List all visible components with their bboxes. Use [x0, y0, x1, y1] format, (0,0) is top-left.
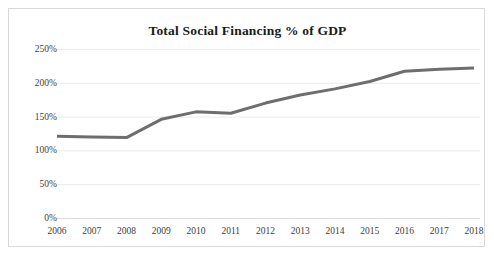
x-axis-tick-label: 2018: [465, 226, 484, 236]
x-axis-tick-label: 2009: [152, 226, 171, 236]
x-axis-tick-label: 2006: [48, 226, 67, 236]
x-axis-tick-label: 2013: [291, 226, 310, 236]
x-axis-ticks: 2006200720082009201020112012201320142015…: [9, 9, 486, 248]
corner-mark: •: [479, 240, 481, 245]
chart-container: Total Social Financing % of GDP 0%50%100…: [8, 8, 485, 247]
x-axis-tick-label: 2011: [221, 226, 240, 236]
x-axis-tick-label: 2015: [360, 226, 379, 236]
x-axis-tick-label: 2017: [430, 226, 449, 236]
x-axis-tick-label: 2008: [117, 226, 136, 236]
x-axis-tick-label: 2016: [395, 226, 414, 236]
x-axis-tick-label: 2007: [82, 226, 101, 236]
x-axis-tick-label: 2010: [187, 226, 206, 236]
x-axis-tick-label: 2014: [326, 226, 345, 236]
x-axis-tick-label: 2012: [256, 226, 275, 236]
